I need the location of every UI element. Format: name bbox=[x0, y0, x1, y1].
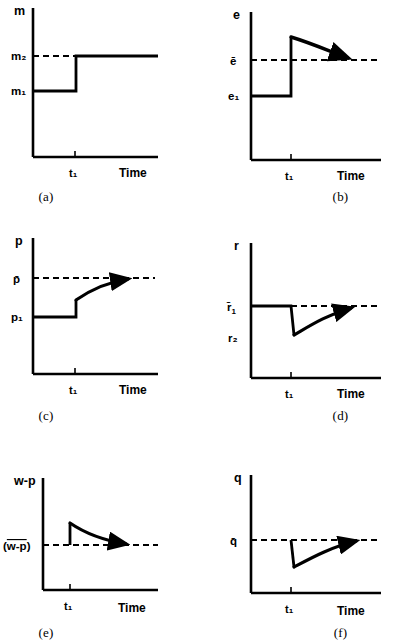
y-level-label-upper: ē bbox=[230, 55, 236, 67]
event-tick-label: t₁ bbox=[69, 167, 78, 179]
x-axis-label: Time bbox=[119, 383, 147, 397]
panel-d: r r̄1 r₂ t₁ Time (d) bbox=[196, 215, 393, 430]
y-level-label-upper: p̄ bbox=[13, 273, 20, 285]
panel-f-labels: q q̄ t₁ Time bbox=[196, 430, 393, 641]
event-tick-label: t₁ bbox=[285, 170, 294, 182]
panel-caption-e: (e) bbox=[0, 625, 144, 641]
panel-caption-a: (a) bbox=[0, 189, 144, 205]
x-axis-label: Time bbox=[337, 387, 365, 401]
event-tick-label: t₁ bbox=[69, 384, 78, 396]
y-level-label-lower: p₁ bbox=[11, 311, 23, 323]
panel-b-labels: e ē e₁ t₁ Time bbox=[196, 0, 393, 215]
r-bar-subscript: 1 bbox=[231, 307, 236, 316]
y-axis-label: w-p bbox=[13, 474, 36, 488]
w-minus-p-overbar: w-p bbox=[6, 540, 27, 552]
panel-caption-f: (f) bbox=[242, 625, 393, 641]
panel-caption-b: (b) bbox=[242, 189, 393, 205]
y-level-label-lower: e₁ bbox=[228, 90, 239, 102]
panel-a: m m₂ m₁ t₁ Time (a) bbox=[0, 0, 196, 215]
panel-c-labels: p p̄ p₁ t₁ Time bbox=[0, 215, 196, 430]
x-axis-label: Time bbox=[337, 169, 365, 183]
x-axis-label: Time bbox=[337, 604, 365, 618]
x-axis-label: Time bbox=[119, 166, 147, 180]
y-axis-label: r bbox=[234, 239, 239, 253]
y-level-label-lower: r₂ bbox=[228, 332, 238, 344]
event-tick-label: t₁ bbox=[64, 600, 73, 612]
panel-a-labels: m m₂ m₁ t₁ Time bbox=[0, 0, 196, 215]
y-axis-label: q bbox=[234, 471, 242, 485]
y-axis-label: p bbox=[15, 234, 23, 248]
panel-caption-d: (d) bbox=[242, 408, 393, 424]
panel-b: e ē e₁ t₁ Time (b) bbox=[196, 0, 393, 215]
y-level-label-upper: r̄1 bbox=[227, 301, 237, 316]
y-axis-label: m bbox=[14, 4, 25, 18]
panel-e: w-p (w-p) t₁ Time (e) bbox=[0, 430, 196, 641]
y-axis-label: e bbox=[233, 8, 240, 22]
panel-caption-c: (c) bbox=[0, 408, 144, 424]
y-level-label: (w-p) bbox=[3, 540, 31, 552]
figure-panel-grid: m m₂ m₁ t₁ Time (a) e ē bbox=[0, 0, 393, 641]
panel-d-labels: r r̄1 r₂ t₁ Time bbox=[196, 215, 393, 430]
event-tick-label: t₁ bbox=[285, 603, 294, 615]
x-axis-label: Time bbox=[118, 601, 146, 615]
panel-c: p p̄ p₁ t₁ Time (c) bbox=[0, 215, 196, 430]
panel-e-labels: w-p (w-p) t₁ Time bbox=[0, 430, 196, 641]
y-level-label: q̄ bbox=[230, 535, 237, 547]
y-level-label-lower: m₁ bbox=[11, 85, 26, 97]
y-level-label-upper: m₂ bbox=[11, 50, 26, 62]
panel-f: q q̄ t₁ Time (f) bbox=[196, 430, 393, 641]
event-tick-label: t₁ bbox=[285, 388, 294, 400]
